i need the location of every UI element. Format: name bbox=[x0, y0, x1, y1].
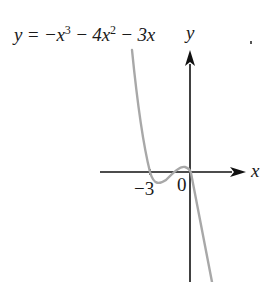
equation-prefix: y = −x bbox=[14, 24, 65, 45]
equation-mid: − 4x bbox=[71, 24, 110, 45]
tick-label-minus-3: −3 bbox=[134, 178, 154, 200]
y-axis-label: y bbox=[186, 22, 194, 44]
y-axis-arrowhead-icon bbox=[185, 50, 195, 66]
stray-mark bbox=[250, 41, 252, 44]
x-axis-label: x bbox=[251, 160, 259, 182]
tick-label-origin: 0 bbox=[177, 174, 187, 196]
cubic-curve bbox=[132, 50, 212, 282]
equation-suffix: − 3x bbox=[116, 24, 155, 45]
equation-label: y = −x3 − 4x2 − 3x bbox=[14, 24, 155, 46]
x-axis-arrowhead-icon bbox=[230, 167, 246, 177]
